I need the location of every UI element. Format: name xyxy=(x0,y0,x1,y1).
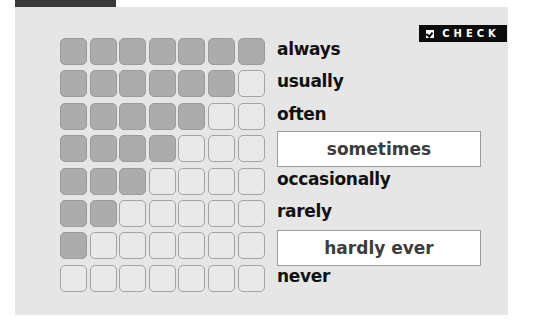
empty-square xyxy=(178,135,205,162)
filled-square xyxy=(119,38,146,65)
filled-square xyxy=(60,232,87,259)
filled-square xyxy=(208,38,235,65)
filled-square xyxy=(178,38,205,65)
grid-row xyxy=(60,103,267,132)
filled-square xyxy=(90,70,117,97)
filled-square xyxy=(90,135,117,162)
filled-square xyxy=(60,103,87,130)
grid-row xyxy=(60,265,267,294)
grid-row xyxy=(60,232,267,261)
empty-square xyxy=(178,200,205,227)
filled-square xyxy=(60,135,87,162)
empty-square xyxy=(208,168,235,195)
filled-square xyxy=(60,38,87,65)
empty-square xyxy=(178,168,205,195)
filled-square xyxy=(149,103,176,130)
filled-square xyxy=(119,103,146,130)
filled-square xyxy=(60,70,87,97)
empty-square xyxy=(208,135,235,162)
filled-square xyxy=(238,38,265,65)
empty-square xyxy=(119,200,146,227)
grid-row xyxy=(60,70,267,99)
empty-square xyxy=(90,232,117,259)
empty-square xyxy=(238,70,265,97)
empty-square xyxy=(119,265,146,292)
empty-square xyxy=(149,200,176,227)
filled-square xyxy=(60,200,87,227)
filled-square xyxy=(119,70,146,97)
grid-row xyxy=(60,200,267,229)
filled-square xyxy=(208,70,235,97)
empty-square xyxy=(238,168,265,195)
filled-square xyxy=(119,168,146,195)
frequency-label: usually xyxy=(277,71,343,91)
answer-box: sometimes xyxy=(277,131,481,167)
filled-square xyxy=(60,168,87,195)
empty-square xyxy=(149,232,176,259)
filled-square xyxy=(178,103,205,130)
empty-square xyxy=(208,232,235,259)
empty-square xyxy=(149,265,176,292)
empty-square xyxy=(238,232,265,259)
empty-square xyxy=(60,265,87,292)
empty-square xyxy=(208,103,235,130)
empty-square xyxy=(90,265,117,292)
empty-square xyxy=(149,168,176,195)
empty-square xyxy=(178,232,205,259)
empty-square xyxy=(208,200,235,227)
header-bar xyxy=(15,0,116,7)
checkbox-tick-icon xyxy=(426,30,434,38)
filled-square xyxy=(178,70,205,97)
filled-square xyxy=(149,70,176,97)
frequency-label: rarely xyxy=(277,201,332,221)
grid-row xyxy=(60,168,267,197)
answer-box: hardly ever xyxy=(277,230,481,266)
empty-square xyxy=(238,135,265,162)
filled-square xyxy=(119,135,146,162)
frequency-label: occasionally xyxy=(277,169,391,189)
filled-square xyxy=(149,135,176,162)
check-badge: CHECK xyxy=(419,25,507,42)
empty-square xyxy=(238,265,265,292)
grid-row xyxy=(60,38,267,67)
frequency-label: never xyxy=(277,266,330,286)
filled-square xyxy=(90,38,117,65)
check-label: CHECK xyxy=(442,28,500,39)
frequency-label: often xyxy=(277,104,326,124)
filled-square xyxy=(90,168,117,195)
empty-square xyxy=(119,232,146,259)
filled-square xyxy=(90,103,117,130)
frequency-label: always xyxy=(277,39,340,59)
empty-square xyxy=(238,200,265,227)
empty-square xyxy=(238,103,265,130)
empty-square xyxy=(178,265,205,292)
filled-square xyxy=(90,200,117,227)
empty-square xyxy=(208,265,235,292)
grid-row xyxy=(60,135,267,164)
filled-square xyxy=(149,38,176,65)
